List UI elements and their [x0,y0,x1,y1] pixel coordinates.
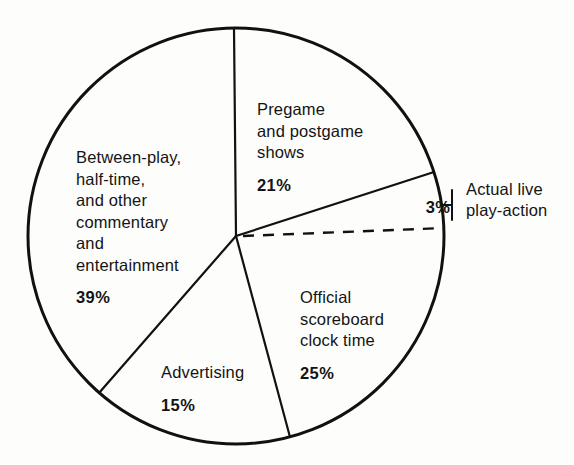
slice-value-advertising: 15% [161,395,311,416]
slice-label-scoreboard: Official scoreboard clock time 25% [300,266,440,406]
slice-label-pregame-text: Pregame and postgame shows [257,100,363,161]
slice-value-pregame: 21% [257,175,407,196]
slice-label-advertising: Advertising 15% [161,341,311,438]
slice-value-between-play: 39% [76,287,236,308]
slice-value-live-play-action: 3% [410,197,450,218]
slice-label-scoreboard-text: Official scoreboard clock time [300,288,384,349]
slice-label-live-play-action: Actual live play-action [466,179,574,222]
slice-label-between-play-text: Between-play, half-time, and other comme… [76,148,181,273]
slice-label-pregame: Pregame and postgame shows 21% [257,78,407,218]
pie-chart: Pregame and postgame shows 21% Between-p… [0,0,574,465]
slice-label-advertising-text: Advertising [161,363,244,381]
slice-label-between-play: Between-play, half-time, and other comme… [76,126,236,330]
dashed-divider-live-play-action [243,228,444,236]
slice-value-scoreboard: 25% [300,363,440,384]
